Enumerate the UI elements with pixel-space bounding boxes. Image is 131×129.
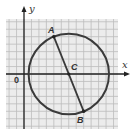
x-axis-label: x (122, 59, 128, 70)
point-b-label: B (77, 115, 84, 125)
point-c-label: C (71, 62, 78, 72)
y-axis-arrow-icon (22, 6, 27, 12)
point-a-label: A (47, 25, 55, 35)
coordinate-diagram: y x 0 A B C (0, 0, 131, 129)
x-axis-arrow-icon (124, 72, 130, 77)
point-c (67, 72, 70, 75)
origin-label: 0 (14, 75, 19, 85)
point-a (52, 35, 56, 39)
point-b (82, 110, 86, 114)
y-axis-label: y (28, 3, 35, 14)
